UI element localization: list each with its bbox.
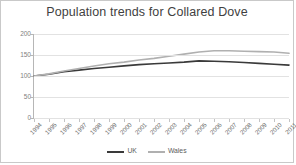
x-tick-mark-2007 [229,119,230,122]
x-tick-mark-2008 [244,119,245,122]
y-tick-label-150: 150 [5,52,31,59]
x-tick-mark-1995 [49,119,50,122]
x-tick-mark-1998 [94,119,95,122]
gridline-50 [34,97,289,98]
legend-swatch-wales [148,151,165,153]
gridline-150 [34,55,289,56]
x-tick-mark-2010 [274,119,275,122]
legend-label-uk: UK [127,148,136,155]
gridline-200 [34,34,289,35]
series-line-uk [34,61,289,76]
y-tick-label-50: 50 [5,94,31,101]
x-axis-labels: 1994199519961997199819992000200120022003… [34,119,289,149]
plot-area [34,34,289,118]
chart-container: Population trends for Collared Dove 0501… [0,0,294,163]
x-tick-mark-1999 [109,119,110,122]
x-tick-mark-1997 [79,119,80,122]
legend-item-uk[interactable]: UK [107,148,136,155]
x-tick-mark-2001 [139,119,140,122]
x-tick-mark-2003 [169,119,170,122]
x-tick-mark-2009 [259,119,260,122]
y-tick-label-100: 100 [5,73,31,80]
legend-swatch-uk [107,151,124,153]
x-tick-mark-2005 [199,119,200,122]
x-tick-mark-1994 [34,119,35,122]
y-tick-label-200: 200 [5,31,31,38]
x-tick-mark-2004 [184,119,185,122]
x-tick-mark-2000 [124,119,125,122]
chart-legend: UKWales [1,148,293,155]
x-tick-mark-2002 [154,119,155,122]
legend-item-wales[interactable]: Wales [148,148,187,155]
y-tick-label-0: 0 [5,115,31,122]
chart-title: Population trends for Collared Dove [1,5,293,19]
x-tick-mark-1996 [64,119,65,122]
x-tick-mark-2006 [214,119,215,122]
gridline-100 [34,76,289,77]
legend-label-wales: Wales [168,148,187,155]
x-tick-mark-2011 [289,119,290,122]
